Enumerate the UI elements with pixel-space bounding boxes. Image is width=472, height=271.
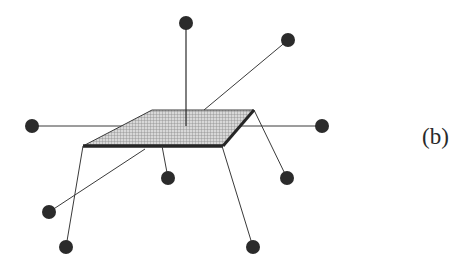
node-bottom-right [246,240,260,254]
coordination-diagram [0,0,472,271]
node-center-below [161,171,175,185]
node-top [179,16,193,30]
node-bottom-left [59,240,73,254]
node-right [315,119,329,133]
node-right-below [280,171,294,185]
figure-label: (b) [422,125,449,148]
edge-top-right [204,40,288,110]
edge-bottom-right [222,146,253,247]
edge-right-below [254,110,287,178]
edge-bottom-left [66,146,83,247]
node-top-right [281,33,295,47]
edge-left-lower [49,149,145,212]
node-left-lower [42,205,56,219]
node-left [25,119,39,133]
